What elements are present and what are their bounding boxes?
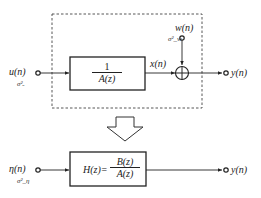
bottom-input-terminal [36,168,40,172]
transfer-prefix: H(z)= [83,164,108,175]
output-terminal [224,71,228,75]
denominator: A(z) [110,168,140,179]
numerator: B(z) [110,156,140,168]
bottom-output-terminal [224,168,228,172]
input-label: u(n) [9,66,26,77]
bottom-input-variance: σ²_η [17,177,30,185]
output-label: y(n) [231,67,247,78]
noise-label: w(n) [175,22,193,33]
bottom-input-label: η(n) [9,163,26,174]
noise-variance: σ²_w [168,35,182,43]
transfer-fraction: B(z) A(z) [110,156,140,179]
intermediate-label: x(n) [150,58,166,69]
block-1-fraction: 1 A(z) [92,61,122,84]
input-terminal [36,71,40,75]
bottom-output-label: y(n) [231,164,247,175]
denominator: A(z) [92,73,122,84]
input-variance: σ²ᵤ [17,80,25,88]
numerator: 1 [92,61,122,73]
down-hollow-arrow [107,117,143,141]
